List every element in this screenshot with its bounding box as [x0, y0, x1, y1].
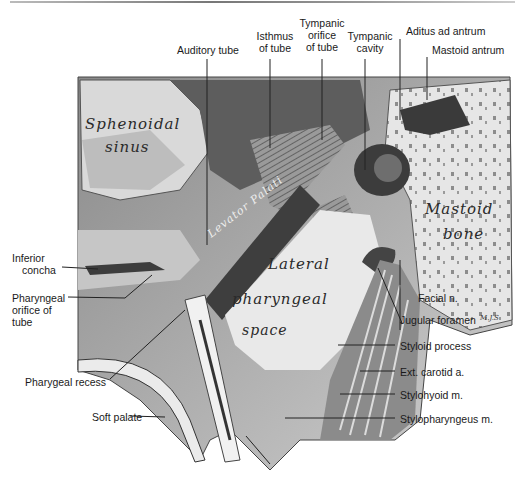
label-styloid-process: Styloid process: [400, 340, 471, 352]
label-pharyngeal: pharyngeal: [232, 290, 328, 308]
label-aditus-ad-antrum: Aditus ad antrum: [406, 25, 485, 37]
label-isthmus: Isthmusof tube: [250, 30, 300, 54]
signature: M.J.S: [479, 314, 499, 322]
label-ext-carotid: Ext. carotid a.: [400, 366, 464, 378]
label-stylohyoid: Stylohyoid m.: [400, 389, 463, 401]
label-tympanic-cavity: Tympaniccavity: [345, 30, 395, 54]
label-auditory-tube: Auditory tube: [177, 44, 239, 56]
label-sinus: sinus: [105, 138, 150, 156]
label-bone: bone: [443, 225, 484, 243]
label-tympanic-orifice: Tympanicorificeof tube: [297, 17, 347, 53]
label-soft-palate: Soft palate: [92, 411, 142, 423]
label-stylopharyngeus: Stylopharyngeus m.: [400, 413, 493, 425]
label-pharygeal-recess: Pharygeal recess: [25, 376, 106, 388]
label-pharyngeal-orifice: Pharyngealorifice oftube: [12, 292, 65, 328]
label-inferior-concha: Inferiorconcha: [12, 252, 56, 276]
label-jugular-foramen: Jugular foramen: [400, 314, 476, 326]
label-lateral: Lateral: [268, 255, 330, 273]
label-sphenoidal: Sphenoidal: [85, 115, 180, 133]
label-facial-n: Facial n.: [418, 292, 458, 304]
label-space: space: [242, 322, 288, 338]
label-mastoid: Mastoid: [425, 200, 493, 218]
label-mastoid-antrum: Mastoid antrum: [432, 44, 504, 56]
